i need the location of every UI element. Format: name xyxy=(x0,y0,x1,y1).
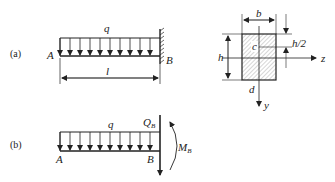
z-axis-label: z xyxy=(321,53,325,64)
section-width-label: b xyxy=(256,8,262,19)
figure-a-beam xyxy=(60,28,164,84)
shear-force-label: QB xyxy=(143,117,155,130)
section-half-height-label: h/2 xyxy=(292,38,306,49)
figure-b-beam xyxy=(60,115,177,175)
figure-b-load-label: q xyxy=(108,119,114,130)
cross-section xyxy=(222,14,316,106)
section-height-label: h xyxy=(218,52,224,63)
figure-a-point-b: B xyxy=(166,55,173,66)
figure-b-point-a: A xyxy=(56,154,63,165)
section-point-c: c xyxy=(251,41,258,52)
moment-label: MB xyxy=(178,142,191,155)
y-axis-label: y xyxy=(264,100,269,111)
figure-a-length-label: l xyxy=(106,66,109,77)
figure-b-tag: (b) xyxy=(10,140,22,150)
figure-a-load-label: q xyxy=(104,23,110,34)
figure-b-point-b: B xyxy=(147,154,154,165)
section-point-d: d xyxy=(249,84,255,95)
diagram-canvas xyxy=(0,0,335,182)
figure-a-tag: (a) xyxy=(10,49,21,59)
figure-a-point-a: A xyxy=(47,50,54,61)
